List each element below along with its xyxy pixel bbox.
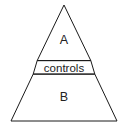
segment-label-b: B	[60, 90, 68, 104]
segment-label-controls: controls	[44, 62, 85, 74]
pyramid-diagram-svg: A controls B	[0, 0, 126, 129]
segment-label-a: A	[60, 33, 69, 47]
pyramid-diagram: A controls B	[0, 0, 126, 129]
